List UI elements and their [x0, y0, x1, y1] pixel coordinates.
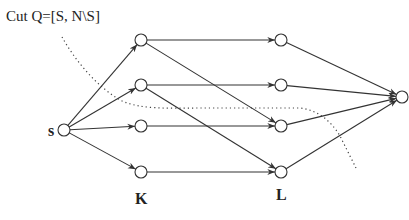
set-k-label: K: [135, 190, 148, 207]
edge-s-k3: [70, 126, 135, 129]
node-l4: [275, 166, 287, 178]
node-k4: [135, 166, 147, 178]
set-l-label: L: [276, 186, 287, 203]
node-s: [58, 124, 70, 136]
node-t: [396, 91, 408, 103]
edge-s-k2: [69, 88, 136, 127]
source-label: s: [48, 122, 54, 139]
edge-s-k1: [68, 45, 137, 126]
flow-network-diagram: Cut Q=[S, N\S] s t K L: [0, 0, 409, 220]
node-k3: [135, 120, 147, 132]
cut-curve: [62, 37, 356, 168]
edge-l3-t: [287, 98, 396, 124]
edge-l4-t: [286, 100, 397, 169]
nodes: [58, 34, 408, 178]
node-l1: [275, 34, 287, 46]
edge-k1-l3: [146, 43, 276, 123]
node-k1: [135, 34, 147, 46]
edge-l2-t: [287, 86, 396, 97]
edge-s-k4: [69, 133, 135, 169]
node-k2: [135, 79, 147, 91]
cut-title: Cut Q=[S, N\S]: [6, 8, 100, 24]
node-l3: [275, 120, 287, 132]
node-l2: [275, 79, 287, 91]
edges: [68, 40, 397, 172]
edge-k2-l4: [146, 88, 276, 169]
